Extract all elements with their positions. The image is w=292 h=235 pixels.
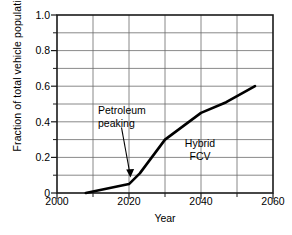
chart-figure: Fraction of total vehicle population 1.0… xyxy=(0,0,292,235)
annotation-hybrid-fcv: Hybrid FCV xyxy=(172,137,228,162)
annotation-petroleum-line2: peaking xyxy=(98,117,146,130)
petroleum-peaking-arrow xyxy=(122,128,135,178)
annotation-petroleum-line1: Petroleum xyxy=(98,104,146,117)
annotation-hybrid-line2: FCV xyxy=(172,150,228,163)
plot-area xyxy=(0,0,292,235)
annotation-hybrid-line1: Hybrid xyxy=(172,137,228,150)
gridlines xyxy=(57,15,273,193)
x-axis-ticks xyxy=(57,193,273,199)
annotation-petroleum-peaking: Petroleum peaking xyxy=(98,104,146,129)
y-axis-ticks xyxy=(51,15,57,193)
